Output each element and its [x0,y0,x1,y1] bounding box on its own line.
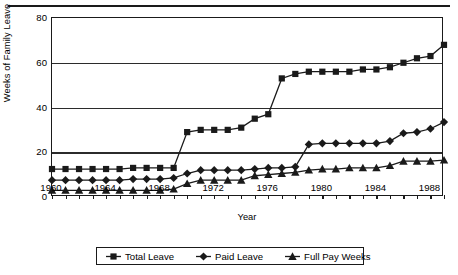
legend-label: Paid Leave [215,251,263,262]
data-point-marker [319,69,325,75]
data-point-marker [441,42,447,48]
data-point-marker [110,253,116,259]
x-tick-label: 1988 [406,182,452,193]
x-tick-label: 1964 [82,182,128,193]
legend-item-paid-leave[interactable]: Paid Leave [196,251,263,262]
plot-area: 020406080 [51,17,443,196]
series-plot [52,18,444,197]
data-point-marker [224,166,232,174]
series-paid-leave [48,118,448,184]
data-point-marker [399,129,407,137]
x-tick-label: 1980 [298,182,344,193]
data-point-marker [426,125,434,133]
data-point-marker [413,128,421,136]
x-tick-label: 1984 [352,182,398,193]
series-line [52,122,444,180]
data-point-marker [171,165,177,171]
data-point-marker [373,66,379,72]
data-point-marker [225,127,231,133]
x-tick-label: 1976 [244,182,290,193]
data-point-marker [306,69,312,75]
data-point-marker [292,71,298,77]
x-tick-label: 1972 [190,182,236,193]
y-tick-label: 80 [7,12,47,23]
series-line [52,45,444,169]
x-axis-title: Year [51,212,443,222]
data-point-marker [359,139,367,147]
data-point-marker [414,55,420,61]
legend-item-full-pay-weeks[interactable]: Full Pay Weeks [285,251,370,262]
data-point-marker [440,118,448,126]
data-point-marker [197,166,205,174]
data-point-marker [427,53,433,59]
data-point-marker [144,165,150,171]
data-point-marker [170,174,178,182]
data-point-marker [265,111,271,117]
legend-label: Full Pay Weeks [304,251,370,262]
y-tick-label: 20 [7,146,47,157]
legend-label: Total Leave [125,251,174,262]
data-point-marker [62,166,68,172]
data-point-marker [345,139,353,147]
data-point-marker [211,127,217,133]
data-point-marker [184,129,190,135]
x-tick-label: 1960 [28,182,74,193]
data-point-marker [238,125,244,131]
triangle-marker-icon [285,251,300,262]
data-point-marker [386,137,394,145]
data-point-marker [372,139,380,147]
data-point-marker [157,165,163,171]
data-point-marker [305,140,313,148]
legend-item-total-leave[interactable]: Total Leave [106,251,174,262]
data-point-marker [400,60,406,66]
data-point-marker [360,66,366,72]
data-point-marker [103,166,109,172]
data-point-marker [76,166,82,172]
data-point-marker [333,69,339,75]
diamond-marker-icon [196,251,211,262]
data-point-marker [183,169,191,177]
data-point-marker [252,116,258,122]
data-point-marker [318,139,326,147]
x-tick-mark [444,195,445,199]
chart-legend: Total LeavePaid LeaveFull Pay Weeks [96,247,364,265]
data-point-marker [89,166,95,172]
data-point-marker [387,64,393,70]
square-marker-icon [106,251,121,262]
series-total-leave [49,42,447,172]
data-point-marker [130,165,136,171]
data-point-marker [279,75,285,81]
data-point-marker [237,166,245,174]
data-point-marker [210,166,218,174]
x-tick-label: 1968 [136,182,182,193]
data-point-marker [346,69,352,75]
data-point-marker [198,127,204,133]
y-tick-label: 40 [7,102,47,113]
y-tick-label: 60 [7,57,47,68]
data-point-marker [116,166,122,172]
family-leave-chart-figure: Weeks of Family Leave 020406080 19601964… [0,0,458,275]
data-point-marker [49,166,55,172]
data-point-marker [199,252,207,260]
data-point-marker [332,139,340,147]
